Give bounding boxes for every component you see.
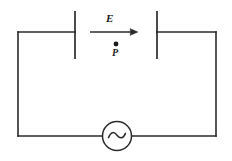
point-p-marker bbox=[114, 42, 119, 47]
circuit-schematic-canvas bbox=[0, 0, 232, 161]
field-arrow-head bbox=[130, 29, 138, 36]
electric-field-arrow bbox=[90, 29, 138, 36]
ac-voltage-source bbox=[103, 122, 132, 151]
electric-field-label: E bbox=[106, 13, 114, 24]
circuit-diagram-figure: E P bbox=[0, 0, 232, 161]
point-p-label: P bbox=[112, 48, 118, 58]
